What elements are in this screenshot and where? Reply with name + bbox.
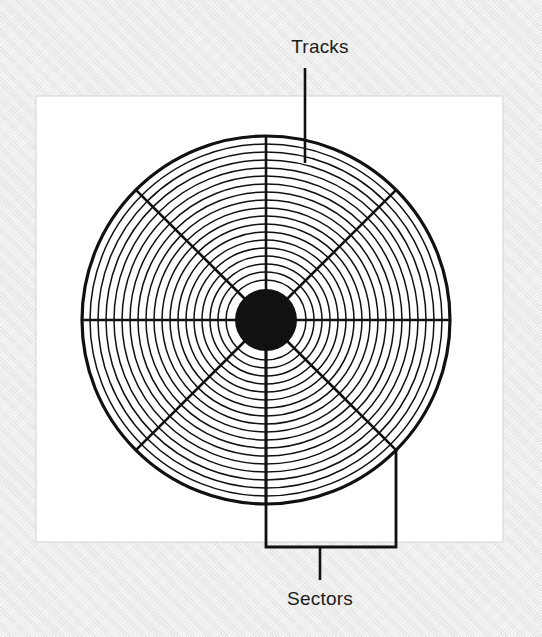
figure-canvas: Tracks Sectors xyxy=(0,0,542,637)
disk-diagram: Tracks Sectors xyxy=(0,0,542,637)
tracks-label: Tracks xyxy=(291,36,349,57)
sectors-label: Sectors xyxy=(287,588,353,609)
